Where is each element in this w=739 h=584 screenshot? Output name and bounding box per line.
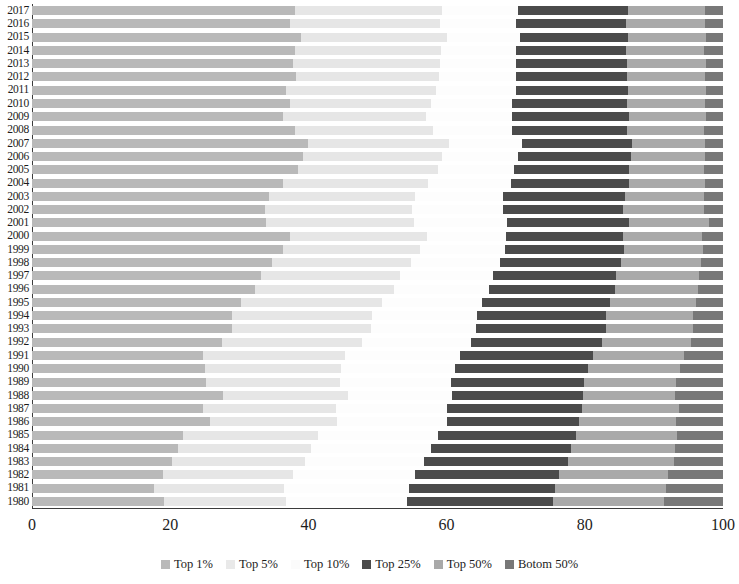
bar-segment	[553, 497, 664, 506]
bar-segment	[522, 139, 632, 148]
bar-segment	[693, 311, 723, 320]
bar-segment	[624, 245, 703, 254]
bar-row	[32, 232, 723, 241]
legend-item[interactable]: Top 50%	[434, 558, 492, 571]
bar-segment	[706, 86, 723, 95]
bar-segment	[32, 404, 203, 413]
bar-segment	[433, 126, 512, 135]
bar-segment	[471, 338, 602, 347]
bar-segment	[286, 86, 437, 95]
bar-segment	[626, 46, 705, 55]
bar-segment	[442, 152, 518, 161]
bar-segment	[493, 271, 616, 280]
bar-segment	[32, 324, 232, 333]
bar-segment	[676, 417, 723, 426]
bar-segment	[32, 470, 163, 479]
bar-segment	[265, 205, 412, 214]
bar-segment	[223, 391, 349, 400]
year-label: 1999	[7, 244, 29, 256]
bar-segment	[503, 192, 625, 201]
bar-segment	[183, 431, 318, 440]
bar-row	[32, 391, 723, 400]
bar-segment	[516, 46, 626, 55]
bar-row	[32, 258, 723, 267]
bar-segment	[518, 152, 631, 161]
bar-segment	[431, 99, 513, 108]
bar-segment	[205, 364, 340, 373]
bar-segment	[516, 19, 627, 28]
bar-segment	[628, 6, 705, 15]
legend-item[interactable]: Top 5%	[226, 558, 278, 571]
year-label: 2015	[7, 31, 29, 43]
bar-segment	[32, 285, 255, 294]
bar-segment	[477, 311, 606, 320]
bar-segment	[303, 152, 442, 161]
plot-area	[32, 4, 723, 508]
bar-segment	[583, 391, 675, 400]
bar-segment	[298, 165, 438, 174]
bar-row	[32, 404, 723, 413]
bar-segment	[512, 112, 629, 121]
bar-segment	[512, 99, 627, 108]
bar-segment	[32, 351, 203, 360]
bar-row	[32, 351, 723, 360]
year-label: 1997	[7, 270, 29, 282]
bar-segment	[32, 364, 205, 373]
chart-legend: Top 1%Top 5%Top 10%Top 25%Top 50%Botom 5…	[0, 558, 739, 571]
bar-segment	[32, 232, 290, 241]
bar-segment	[32, 112, 283, 121]
legend-item[interactable]: Top 1%	[161, 558, 213, 571]
year-label: 1998	[7, 257, 29, 269]
year-label: 1980	[7, 496, 29, 508]
year-label: 2000	[7, 230, 29, 242]
bar-segment	[442, 6, 517, 15]
bar-segment	[576, 431, 677, 440]
bar-segment	[705, 179, 723, 188]
bar-segment	[337, 417, 447, 426]
bar-segment	[516, 72, 627, 81]
bar-segment	[261, 271, 400, 280]
bar-row	[32, 298, 723, 307]
legend-label: Top 25%	[375, 558, 420, 571]
bar-segment	[631, 152, 705, 161]
bar-segment	[362, 338, 470, 347]
bar-row	[32, 192, 723, 201]
bar-segment	[679, 404, 723, 413]
bar-segment	[674, 457, 723, 466]
bar-segment	[702, 232, 723, 241]
bar-segment	[222, 338, 362, 347]
bar-segment	[241, 298, 381, 307]
bar-segment	[290, 232, 427, 241]
bar-segment	[431, 444, 571, 453]
year-label: 2001	[7, 217, 29, 229]
bar-segment	[452, 391, 583, 400]
bar-row	[32, 497, 723, 506]
bar-segment	[555, 484, 666, 493]
bar-segment	[206, 378, 340, 387]
bar-segment	[293, 59, 440, 68]
year-label: 2004	[7, 177, 29, 189]
year-label: 1994	[7, 310, 29, 322]
bar-segment	[32, 311, 232, 320]
year-label: 2014	[7, 45, 29, 57]
bar-segment	[284, 484, 408, 493]
bar-segment	[615, 285, 699, 294]
bar-segment	[163, 470, 293, 479]
legend-item[interactable]: Top 10%	[291, 558, 349, 571]
bar-segment	[623, 232, 702, 241]
bar-segment	[516, 86, 629, 95]
legend-swatch-icon	[505, 560, 514, 569]
bar-segment	[680, 364, 723, 373]
bar-segment	[706, 33, 723, 42]
legend-item[interactable]: Botom 50%	[505, 558, 578, 571]
bar-segment	[154, 484, 285, 493]
bar-segment	[32, 391, 223, 400]
bar-segment	[32, 72, 296, 81]
bar-segment	[684, 351, 723, 360]
year-label: 1981	[7, 482, 29, 494]
bar-row	[32, 444, 723, 453]
bar-segment	[507, 218, 629, 227]
legend-item[interactable]: Top 25%	[362, 558, 420, 571]
bar-segment	[460, 351, 593, 360]
bar-segment	[32, 205, 265, 214]
